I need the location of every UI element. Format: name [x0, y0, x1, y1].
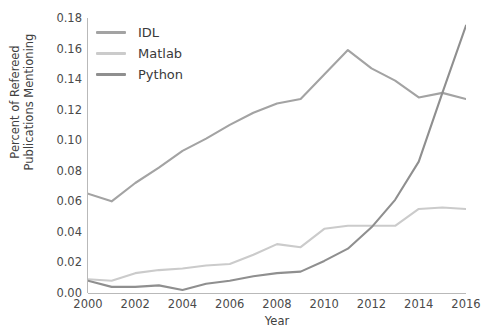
legend-item-label: IDL	[138, 26, 159, 39]
series-line-matlab	[88, 207, 466, 280]
x-tick-label: 2012	[357, 297, 386, 311]
y-axis-tick-labels: 0.000.020.040.060.080.100.120.140.160.18	[30, 0, 82, 335]
y-tick-label: 0.06	[36, 194, 82, 208]
legend-item-matlab[interactable]: Matlab	[96, 43, 246, 64]
y-tick-label: 0.08	[36, 164, 82, 178]
x-axis-spine	[88, 293, 466, 294]
y-tick-label: 0.16	[36, 42, 82, 56]
legend-item-label: Matlab	[138, 47, 182, 60]
legend-swatch-icon	[96, 52, 126, 55]
y-tick-label: 0.04	[36, 225, 82, 239]
y-axis-label-line1: Percent of Refereed	[8, 0, 22, 212]
legend-swatch-icon	[96, 73, 126, 76]
legend-swatch-icon	[96, 31, 126, 34]
y-axis-label: Percent of Refereed Publications Mention…	[8, 0, 36, 212]
y-tick-label: 0.14	[36, 72, 82, 86]
x-tick-label: 2000	[73, 297, 102, 311]
x-tick-label: 2016	[451, 297, 480, 311]
x-tick-label: 2014	[404, 297, 433, 311]
chart-figure: 0.000.020.040.060.080.100.120.140.160.18…	[0, 0, 498, 335]
y-tick-label: 0.10	[36, 133, 82, 147]
x-tick-label: 2002	[121, 297, 150, 311]
y-tick-label: 0.18	[36, 11, 82, 25]
x-axis-label: Year	[88, 314, 466, 328]
legend-item-python[interactable]: Python	[96, 64, 246, 85]
y-axis-label-line2: Publications Mentioning	[22, 0, 36, 212]
x-tick-label: 2006	[215, 297, 244, 311]
legend-item-label: Python	[138, 68, 183, 81]
chart-legend: IDLMatlabPython	[96, 22, 246, 85]
x-tick-label: 2008	[262, 297, 291, 311]
x-tick-label: 2004	[168, 297, 197, 311]
y-tick-label: 0.02	[36, 255, 82, 269]
x-tick-label: 2010	[310, 297, 339, 311]
y-tick-label: 0.12	[36, 103, 82, 117]
legend-item-idl[interactable]: IDL	[96, 22, 246, 43]
